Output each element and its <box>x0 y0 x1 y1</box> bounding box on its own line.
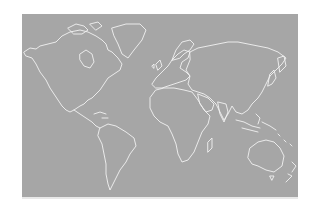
north-america-outline <box>24 30 122 112</box>
world-map-coastlines <box>22 14 298 197</box>
africa-outline <box>150 88 210 162</box>
tasmania-outline <box>270 176 274 180</box>
southeast-asia-islands-outline <box>236 114 276 132</box>
world-map <box>22 14 298 197</box>
hudson-bay-outline <box>80 50 94 68</box>
madagascar-outline <box>208 138 212 152</box>
central-america-outline <box>74 110 100 128</box>
arabia-outline <box>198 94 214 112</box>
british-isles-outline <box>152 60 162 70</box>
map-bottom-border <box>22 197 298 199</box>
asia-outline <box>186 42 286 120</box>
south-america-outline <box>98 124 136 190</box>
japan-outline <box>268 70 276 86</box>
arctic-islands-outline <box>68 22 102 34</box>
caribbean-outline <box>94 112 108 118</box>
pacific-islands-outline <box>278 134 292 146</box>
australia-outline <box>248 140 284 172</box>
greenland-outline <box>112 24 146 58</box>
new-zealand-outline <box>286 162 296 182</box>
india-outline <box>218 102 228 122</box>
